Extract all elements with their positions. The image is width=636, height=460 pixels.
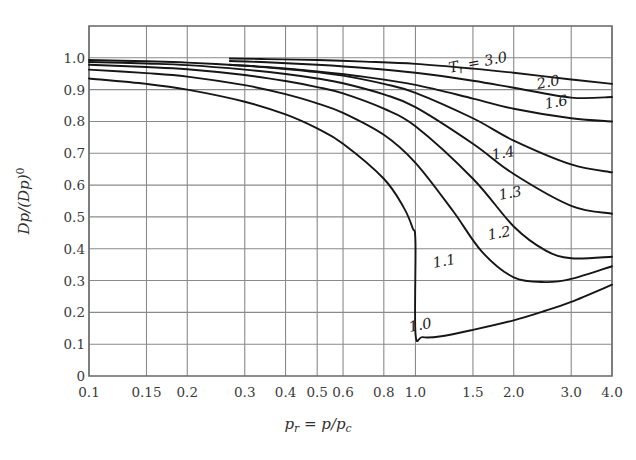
y-tick-label: 0.1 <box>55 336 85 352</box>
x-tick-label: 0.8 <box>373 384 394 400</box>
y-tick-label: 0.5 <box>55 209 85 225</box>
x-tick-label: 0.1 <box>78 384 99 400</box>
x-tick-label: 0.6 <box>332 384 353 400</box>
y-tick-label: 0.2 <box>55 304 85 320</box>
y-tick-label: 0.6 <box>55 177 85 193</box>
x-tick-label: 0.5 <box>306 384 327 400</box>
y-tick-label: 0.4 <box>55 241 85 257</box>
x-tick-label: 1.5 <box>462 384 483 400</box>
plot-background <box>89 26 612 376</box>
y-tick-label: 0.7 <box>55 145 85 161</box>
chart-figure: pr = p/pc Dp/(Dp)0 0.10.150.20.30.40.50.… <box>0 0 636 460</box>
y-tick-label: 0 <box>55 368 85 384</box>
y-tick-label: 0.8 <box>55 113 85 129</box>
y-tick-label: 0.9 <box>55 82 85 98</box>
y-tick-label: 1.0 <box>55 50 85 66</box>
x-tick-label: 4.0 <box>601 384 622 400</box>
x-tick-label: 3.0 <box>560 384 581 400</box>
x-tick-label: 0.3 <box>234 384 255 400</box>
y-axis-title: Dp/(Dp)0 <box>14 168 33 235</box>
x-axis-title: pr = p/pc <box>284 415 351 435</box>
x-tick-label: 0.2 <box>177 384 198 400</box>
y-tick-label: 0.3 <box>55 273 85 289</box>
x-tick-label: 1.0 <box>405 384 426 400</box>
x-tick-label: 0.15 <box>131 384 161 400</box>
x-tick-label: 0.4 <box>275 384 296 400</box>
x-tick-label: 2.0 <box>503 384 524 400</box>
